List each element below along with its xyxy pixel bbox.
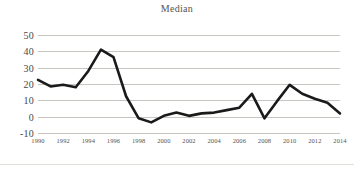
y-axis-tick-label: 40 [0,46,34,57]
x-axis-tick-label: 2000 [157,137,170,144]
footer-divider [0,164,354,165]
x-axis-tick-label: 2004 [207,137,220,144]
x-axis-tick-label: 2012 [308,137,321,144]
x-axis-tick-label: 1990 [31,137,44,144]
x-axis-tick-label: 2008 [258,137,271,144]
x-axis-tick-label: 2002 [182,137,195,144]
x-axis-tick-label: 2014 [333,137,346,144]
gridline--10 [38,133,340,134]
x-axis: 1990199219941996199820002002200420062008… [38,137,340,151]
x-axis-tick-label: 2006 [233,137,246,144]
chart-title: Median [0,3,354,14]
chart-figure: Median 50403020100-10 199019921994199619… [0,0,354,169]
y-axis-tick-label: 30 [0,62,34,73]
x-axis-tick-label: 1992 [56,137,69,144]
y-axis-tick-label: 0 [0,111,34,122]
x-axis-tick-label: 1998 [132,137,145,144]
series-line-chart [38,35,340,133]
x-axis-tick-label: 1996 [107,137,120,144]
x-axis-tick-label: 2010 [283,137,296,144]
y-axis-tick-label: -10 [0,128,34,139]
y-axis-tick-label: 10 [0,95,34,106]
series-line-median [38,50,340,123]
y-axis-tick-label: 20 [0,79,34,90]
y-axis: 50403020100-10 [0,35,34,133]
x-axis-tick-label: 1994 [82,137,95,144]
y-axis-tick-label: 50 [0,30,34,41]
